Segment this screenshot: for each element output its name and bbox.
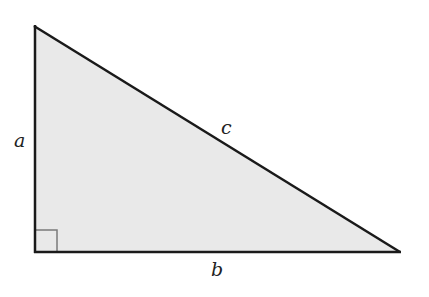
label-a: a: [14, 129, 25, 151]
label-b: b: [211, 258, 223, 280]
label-c: c: [221, 116, 232, 138]
right-triangle-diagram: a b c: [0, 0, 429, 297]
